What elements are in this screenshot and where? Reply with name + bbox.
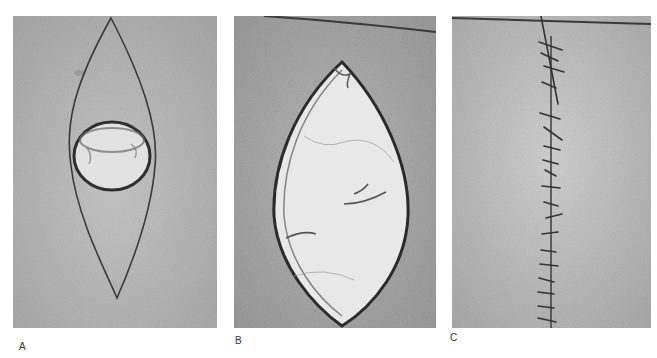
panel-c-photo bbox=[452, 16, 651, 328]
panel-a-label: A bbox=[19, 341, 26, 352]
sutured-closure-image bbox=[452, 16, 651, 328]
panel-b-label: B bbox=[235, 335, 242, 346]
panel-c-label: C bbox=[450, 332, 457, 343]
excision-outline-image bbox=[13, 16, 217, 328]
open-wound-image bbox=[234, 16, 436, 328]
panel-b-photo bbox=[234, 16, 436, 328]
panel-a-photo bbox=[13, 16, 217, 328]
